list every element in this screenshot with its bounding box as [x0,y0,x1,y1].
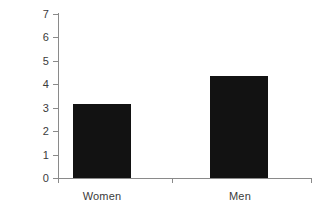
bar-men [210,76,268,178]
x-tick-mark-right [311,178,312,183]
y-tick-label-1: 1 [9,150,49,161]
x-tick-label-men: Men [200,190,280,203]
y-axis-line [58,13,59,179]
y-tick-mark-7 [53,14,58,15]
y-tick-mark-1 [53,155,58,156]
bar-chart: 7 6 5 4 3 2 1 0 Women Men [0,0,326,215]
y-tick-label-4: 4 [9,79,49,90]
y-tick-label-5: 5 [9,56,49,67]
y-tick-mark-6 [53,37,58,38]
x-axis-line [58,178,312,179]
y-tick-label-0: 0 [9,173,49,184]
y-tick-label-6: 6 [9,32,49,43]
x-tick-label-women: Women [62,190,142,203]
y-tick-label-2: 2 [9,126,49,137]
plot-area: 7 6 5 4 3 2 1 0 Women Men [0,0,326,215]
x-tick-mark-middle [172,178,173,183]
y-tick-mark-5 [53,61,58,62]
y-tick-mark-3 [53,108,58,109]
y-tick-label-3: 3 [9,103,49,114]
y-tick-mark-4 [53,84,58,85]
x-tick-mark-left [58,178,59,183]
bar-women [73,104,131,178]
y-tick-mark-2 [53,131,58,132]
y-tick-label-7: 7 [9,9,49,20]
